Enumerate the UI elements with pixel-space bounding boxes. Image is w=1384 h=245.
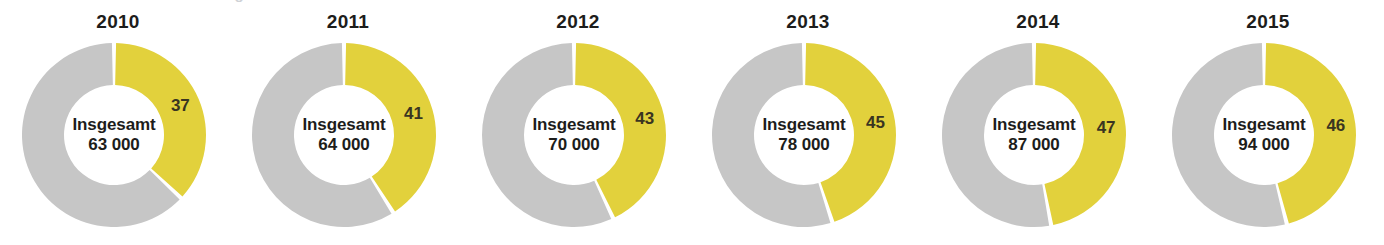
donut-share-label: 47 — [1097, 119, 1116, 137]
donut-slice-remainder — [942, 43, 1049, 227]
donut-panel-2015: 2015Insgesamt94 00046 — [1153, 0, 1383, 245]
donut-share-label: 37 — [171, 97, 190, 115]
donut-panel-2011: 2011Insgesamt64 00041 — [233, 0, 463, 245]
panel-year-label: 2011 — [233, 11, 463, 33]
panel-year-label: 2010 — [3, 11, 233, 33]
donut-panel-row: 2010Insgesamt63 000372011Insgesamt64 000… — [0, 0, 1384, 245]
donut-graphic — [1170, 41, 1358, 229]
donut-panel-2012: 2012Insgesamt70 00043 — [463, 0, 693, 245]
donut-panel-2014: 2014Insgesamt87 00047 — [923, 0, 1153, 245]
donut-graphic — [250, 41, 438, 229]
donut-share-label: 43 — [635, 110, 654, 128]
donut-panel-2013: 2013Insgesamt78 00045 — [693, 0, 923, 245]
donut-graphic — [710, 41, 898, 229]
donut-graphic — [480, 41, 668, 229]
donut-slice-share — [115, 43, 206, 196]
panel-year-label: 2013 — [693, 11, 923, 33]
panel-year-label: 2012 — [463, 11, 693, 33]
donut-share-label: 41 — [404, 105, 423, 123]
donut-share-label: 45 — [866, 114, 885, 132]
donut-share-label: 46 — [1326, 117, 1345, 135]
panel-year-label: 2014 — [923, 11, 1153, 33]
panel-year-label: 2015 — [1153, 11, 1383, 33]
donut-chart-figure: teilweise abgeschnittene Überschrift 201… — [0, 0, 1384, 245]
donut-panel-2010: 2010Insgesamt63 00037 — [3, 0, 233, 245]
donut-graphic — [20, 41, 208, 229]
